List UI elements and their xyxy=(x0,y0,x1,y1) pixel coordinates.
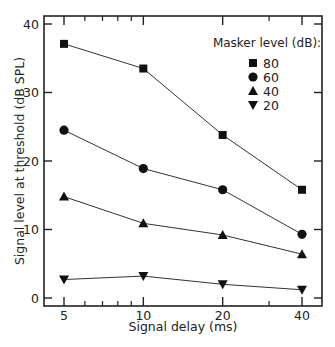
square-marker-icon xyxy=(298,186,306,194)
triangle-down-marker-icon xyxy=(297,286,307,295)
triangle-up-marker-icon xyxy=(138,218,148,227)
series-20 xyxy=(59,272,307,295)
square-marker-icon xyxy=(60,40,68,48)
legend-circle-icon xyxy=(248,72,257,81)
square-marker-icon xyxy=(139,65,147,73)
legend-label: 40 xyxy=(263,84,279,99)
chart: 0102030405102040 Masker level (dB):80604… xyxy=(0,0,335,347)
legend-square-icon xyxy=(249,59,257,67)
triangle-up-marker-icon xyxy=(59,192,69,201)
series-60 xyxy=(59,126,306,239)
x-axis-label: Signal delay (ms) xyxy=(129,319,238,334)
legend-triangle-down-icon xyxy=(248,101,258,110)
legend-label: 60 xyxy=(263,70,279,85)
x-tick-label: 40 xyxy=(294,308,310,323)
y-axis-label: Signal level at threshold (dB SPL) xyxy=(12,57,27,265)
x-tick-label: 5 xyxy=(60,308,68,323)
circle-marker-icon xyxy=(218,185,227,194)
y-tick-label: 40 xyxy=(23,17,39,32)
legend: Masker level (dB):80604020 xyxy=(213,36,321,113)
circle-marker-icon xyxy=(139,164,148,173)
circle-marker-icon xyxy=(297,230,306,239)
circle-marker-icon xyxy=(59,126,68,135)
legend-label: 20 xyxy=(263,98,279,113)
legend-title: Masker level (dB): xyxy=(213,36,321,50)
series-40 xyxy=(59,192,307,259)
square-marker-icon xyxy=(219,131,227,139)
series-line xyxy=(64,130,302,234)
plot-frame xyxy=(44,16,322,306)
legend-label: 80 xyxy=(263,56,279,71)
y-tick-label: 0 xyxy=(31,291,39,306)
plot-border xyxy=(44,16,322,306)
series-line xyxy=(64,276,302,290)
triangle-down-marker-icon xyxy=(59,276,69,285)
legend-triangle-up-icon xyxy=(248,86,258,95)
series-line xyxy=(64,197,302,255)
